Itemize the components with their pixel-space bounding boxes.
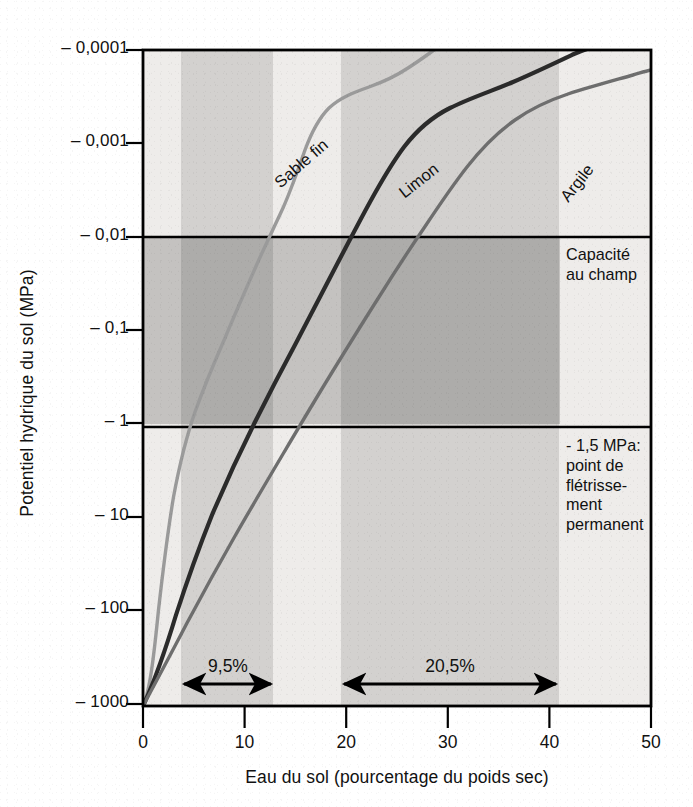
chart-figure: – 0,0001 – 0,001 – 0,01 – 0,1 – 1 – 10 –… bbox=[0, 0, 693, 807]
y-tick-label: – 0,0001 bbox=[61, 38, 129, 58]
y-tick-label: – 0,1 bbox=[90, 318, 129, 338]
annotation-point-fletrissement: - 1,5 MPa: point de flétrisse- ment perm… bbox=[566, 436, 678, 535]
y-tick-label-group: – 0,0001 – 0,001 – 0,01 – 0,1 – 1 – 10 –… bbox=[0, 0, 129, 807]
range-label-argile: 20,5% bbox=[390, 656, 510, 677]
band-available-water-argile bbox=[341, 50, 559, 706]
x-tick-label: 40 bbox=[519, 732, 579, 753]
x-tick-label: 0 bbox=[113, 732, 173, 753]
shaded-bands bbox=[143, 50, 560, 706]
x-tick-label: 20 bbox=[316, 732, 376, 753]
range-label-sable-fin: 9,5% bbox=[168, 656, 288, 677]
y-tick-label: – 1 bbox=[105, 411, 129, 431]
y-tick-label: – 10 bbox=[95, 505, 129, 525]
y-tick-label: – 0,01 bbox=[81, 225, 129, 245]
x-tick-label: 10 bbox=[215, 732, 275, 753]
y-tick-label: – 0,001 bbox=[71, 131, 129, 151]
x-tick-label: 50 bbox=[621, 732, 681, 753]
x-axis-ticks bbox=[143, 706, 651, 728]
y-tick-label: – 100 bbox=[85, 598, 129, 618]
y-tick-label: – 1000 bbox=[76, 692, 129, 712]
x-axis-title: Eau du sol (pourcentage du poids sec) bbox=[143, 767, 651, 788]
x-tick-label: 30 bbox=[418, 732, 478, 753]
annotation-capacite-au-champ: Capacité au champ bbox=[566, 245, 666, 285]
